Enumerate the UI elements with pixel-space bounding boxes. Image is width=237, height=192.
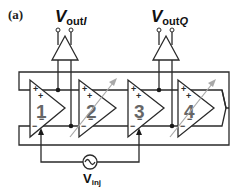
output-terminal: [69, 28, 73, 32]
amp-number: 3: [134, 101, 145, 122]
amp-number: 1: [36, 101, 47, 122]
minus-sign: −: [130, 121, 135, 131]
plus-sign: +: [87, 91, 92, 101]
amplifier-4: + + − − 4: [170, 79, 216, 137]
output-terminal: [56, 28, 60, 32]
injection-source: Vinj: [38, 128, 142, 187]
plus-sign: +: [38, 91, 43, 101]
amp-number: 2: [86, 101, 97, 122]
vout-i-label: VoutI: [55, 7, 87, 27]
output-terminal: [170, 28, 174, 32]
minus-sign: −: [32, 121, 37, 131]
plus-sign: +: [136, 91, 141, 101]
vinj-label: Vinj: [83, 171, 101, 187]
output-terminal: [157, 28, 161, 32]
plus-sign: +: [186, 91, 191, 101]
vout-q-label: VoutQ: [151, 7, 188, 27]
panel-label: (a): [8, 7, 23, 22]
amplifier-2: + + − − 2: [70, 78, 117, 137]
ring-oscillator-diagram: (a) + + − − 1 + + − − 2 + + − −: [0, 0, 237, 192]
